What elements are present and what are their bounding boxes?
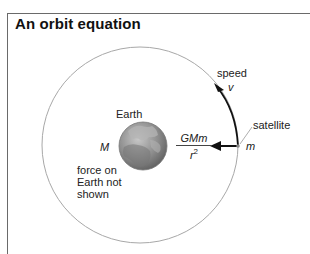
velocity-arrowhead (214, 83, 224, 92)
satellite-dot (236, 144, 240, 148)
force-numerator: GMm (176, 132, 212, 146)
earth-label: Earth (116, 108, 142, 120)
gravitational-force-fraction: GMm r2 (176, 132, 212, 161)
force-note-line-1: force on (77, 164, 117, 176)
earth-globe (119, 122, 167, 170)
force-denominator-exponent: 2 (194, 147, 198, 156)
force-denominator: r2 (176, 146, 212, 161)
velocity-symbol: v (228, 81, 234, 93)
force-note-line-3: shown (77, 188, 109, 200)
velocity-arrow (217, 87, 238, 146)
satellite-mass-label: m (246, 140, 255, 152)
satellite-label: satellite (253, 119, 290, 131)
force-note-line-2: Earth not (77, 176, 122, 188)
earth-mass-label: M (100, 141, 109, 153)
speed-label: speed (217, 67, 247, 79)
